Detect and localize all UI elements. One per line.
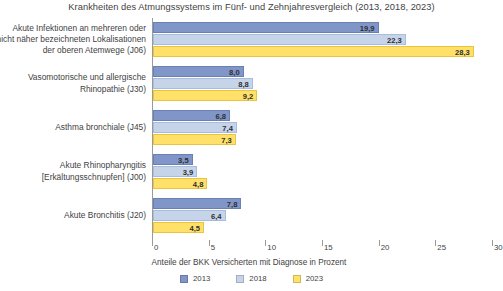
plot-area: Akute Infektionen an mehreren odernicht … — [152, 18, 492, 240]
category-label: Vasomotorische und allergischeRhinopathi… — [0, 72, 146, 94]
category-label: Akute Bronchitis (J20) — [0, 210, 146, 221]
bar-2018: 22,3 — [153, 34, 406, 45]
bar-value-label: 8,8 — [238, 79, 249, 88]
bar-2018: 3,9 — [153, 166, 197, 177]
legend-item-2018[interactable]: 2018 — [236, 274, 266, 283]
x-axis-tick-label: 0 — [154, 243, 158, 252]
bar-2013: 6,8 — [153, 110, 230, 121]
bar-value-label: 3,9 — [183, 167, 194, 176]
bar-2013: 7,8 — [153, 198, 241, 209]
bar-value-label: 7,4 — [222, 123, 233, 132]
x-axis-tick-label: 30 — [494, 243, 503, 252]
category-label-line: [Erkältungsschnupfen] (J00) — [0, 172, 146, 183]
x-axis-tick-label: 25 — [437, 243, 446, 252]
category-label-line: Rhinopathie (J30) — [0, 84, 146, 95]
bar-2018: 7,4 — [153, 122, 237, 133]
legend-item-2013[interactable]: 2013 — [180, 274, 210, 283]
category-label-line: Akute Bronchitis (J20) — [0, 210, 146, 221]
bar-2023: 9,2 — [153, 90, 257, 101]
x-axis-tick-mark — [379, 240, 380, 246]
category-label-line: Asthma bronchiale (J45) — [0, 122, 146, 133]
bar-2018: 8,8 — [153, 78, 253, 89]
bar-value-label: 4,8 — [193, 179, 204, 188]
bar-value-label: 22,3 — [387, 35, 402, 44]
bar-value-label: 7,3 — [221, 135, 232, 144]
bar-2013: 19,9 — [153, 22, 379, 33]
chart-title: Krankheiten des Atmungssystems im Fünf- … — [0, 2, 503, 12]
x-axis-tick-label: 5 — [211, 243, 215, 252]
bar-2023: 4,8 — [153, 178, 207, 189]
bar-value-label: 28,3 — [455, 47, 470, 56]
category-label-line: Akute Rhinopharyngitis — [0, 160, 146, 171]
bar-value-label: 7,8 — [227, 199, 238, 208]
category-label: Akute Rhinopharyngitis[Erkältungsschnupf… — [0, 160, 146, 182]
x-axis-tick-mark — [209, 240, 210, 246]
category-label: Akute Infektionen an mehreren odernicht … — [0, 23, 146, 57]
x-axis-tick-mark — [492, 240, 493, 246]
bar-value-label: 6,4 — [211, 211, 222, 220]
category-label: Asthma bronchiale (J45) — [0, 122, 146, 133]
bar-2023: 28,3 — [153, 46, 474, 57]
bar-value-label: 6,8 — [216, 111, 227, 120]
bar-value-label: 8,0 — [229, 67, 240, 76]
bar-2023: 4,5 — [153, 222, 204, 233]
legend-swatch-icon — [180, 275, 188, 283]
chart-legend: 201320182023 — [0, 274, 503, 283]
bar-chart: Krankheiten des Atmungssystems im Fünf- … — [0, 0, 503, 291]
category-label-line: Vasomotorische und allergische — [0, 72, 146, 83]
legend-item-2023[interactable]: 2023 — [293, 274, 323, 283]
x-axis-tick-label: 15 — [324, 243, 333, 252]
category-label-line: nicht näher bezeichneten Lokalisationen — [0, 34, 146, 45]
legend-label: 2013 — [193, 274, 210, 283]
x-axis-tick-mark — [265, 240, 266, 246]
x-axis-tick-mark — [322, 240, 323, 246]
legend-swatch-icon — [236, 275, 244, 283]
bar-2013: 8,0 — [153, 66, 244, 77]
legend-label: 2018 — [249, 274, 266, 283]
bar-value-label: 9,2 — [243, 91, 254, 100]
bar-value-label: 3,5 — [178, 155, 189, 164]
bar-value-label: 4,5 — [189, 223, 200, 232]
x-axis-tick-label: 20 — [381, 243, 390, 252]
bar-value-label: 19,9 — [360, 23, 375, 32]
x-axis-tick-label: 10 — [267, 243, 276, 252]
x-axis: 051015202530 — [152, 240, 492, 256]
bar-2023: 7,3 — [153, 134, 236, 145]
bar-2013: 3,5 — [153, 154, 193, 165]
x-axis-tick-mark — [152, 240, 153, 246]
x-axis-tick-mark — [435, 240, 436, 246]
bar-2018: 6,4 — [153, 210, 226, 221]
category-label-line: der oberen Atemwege (J06) — [0, 45, 146, 56]
legend-swatch-icon — [293, 275, 301, 283]
legend-label: 2023 — [306, 274, 323, 283]
x-axis-title: Anteile der BKK Versicherten mit Diagnos… — [0, 258, 498, 267]
category-label-line: Akute Infektionen an mehreren oder — [0, 23, 146, 34]
